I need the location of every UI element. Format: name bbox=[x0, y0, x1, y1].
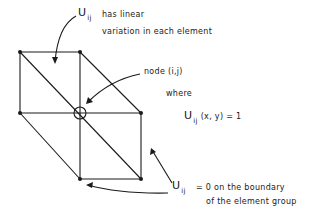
node-dot bbox=[78, 50, 82, 54]
equation-rest: (x, y) = 1 bbox=[201, 112, 242, 121]
arrowhead-icon bbox=[150, 148, 156, 155]
edge bbox=[80, 52, 141, 113]
diagram-canvas: Uij has linear variation in each element… bbox=[0, 0, 327, 214]
arrow-node bbox=[88, 74, 140, 102]
arrowhead-icon bbox=[52, 57, 58, 64]
subscript: ij bbox=[193, 117, 198, 125]
node-dot bbox=[78, 177, 82, 181]
node-label: node (i,j) bbox=[144, 67, 183, 76]
equation-label: Uij (x, y) = 1 bbox=[184, 109, 241, 122]
u-symbol: U bbox=[172, 179, 180, 192]
bottom-label-symbol: Uij bbox=[172, 179, 186, 192]
u-symbol: U bbox=[184, 109, 192, 122]
top-label-line1: has linear bbox=[102, 10, 144, 19]
subscript: ij bbox=[181, 187, 186, 195]
arrowhead-icon bbox=[86, 182, 93, 188]
node-dot bbox=[18, 111, 22, 115]
bottom-label-line1: = 0 on the boundary bbox=[196, 183, 285, 192]
u-symbol: U bbox=[78, 6, 86, 19]
subscript: ij bbox=[87, 14, 92, 22]
arrow-boundary-bottom bbox=[88, 185, 168, 193]
node-dot bbox=[18, 50, 22, 54]
where-label: where bbox=[166, 89, 192, 98]
node-dot bbox=[139, 111, 143, 115]
top-label-symbol: Uij bbox=[78, 6, 92, 19]
top-label-line2: variation in each element bbox=[102, 27, 212, 36]
node-dot bbox=[139, 177, 143, 181]
arrow-top bbox=[55, 16, 76, 62]
bottom-label-line2: of the element group bbox=[206, 197, 297, 206]
edge bbox=[20, 113, 80, 179]
arrow-boundary-right bbox=[152, 150, 172, 183]
